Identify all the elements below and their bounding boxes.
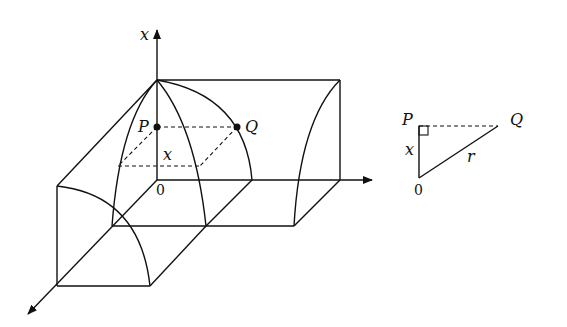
right-bottom-diag (294, 180, 340, 226)
triangle-hypotenuse (419, 126, 498, 178)
depth-axis (28, 180, 157, 314)
figure-canvas: x P Q x 0 P Q x r 0 (0, 0, 567, 327)
point-p-label: P (137, 117, 149, 136)
triangle-p-label: P (401, 110, 413, 129)
origin-label: 0 (156, 182, 165, 198)
point-p-marker (154, 124, 161, 131)
triangle-diagram (419, 126, 498, 178)
main-solid (28, 30, 372, 314)
triangle-r-label: r (467, 147, 476, 166)
triangle-x-label: x (405, 140, 414, 159)
arc-far-right (294, 80, 340, 226)
axis-x-label: x (140, 25, 149, 44)
right-angle-marker (419, 126, 428, 135)
middle-bottom-diag (206, 180, 252, 226)
point-q-marker (234, 124, 241, 131)
height-x-label: x (163, 145, 172, 164)
lower-front-diag (150, 226, 206, 286)
point-q-label: Q (245, 117, 258, 136)
triangle-q-label: Q (510, 110, 523, 129)
cross-section (118, 127, 237, 166)
triangle-origin-label: 0 (414, 182, 423, 198)
